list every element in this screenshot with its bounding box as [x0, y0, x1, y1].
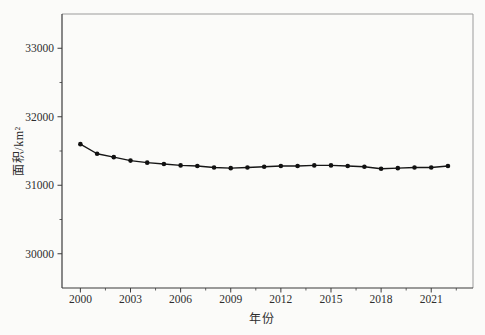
- data-point: [95, 151, 100, 156]
- y-tick-label: 31000: [25, 179, 54, 191]
- data-point: [295, 164, 300, 169]
- x-tick-label: 2021: [420, 293, 443, 305]
- data-point: [245, 165, 250, 170]
- data-point: [262, 164, 267, 169]
- data-point: [212, 165, 217, 170]
- y-axis-title: 面积/km²: [9, 126, 27, 175]
- x-tick-label: 2006: [169, 293, 192, 305]
- data-point: [162, 162, 167, 167]
- x-tick-label: 2009: [219, 293, 242, 305]
- data-point: [412, 165, 417, 170]
- x-tick-label: 2003: [119, 293, 142, 305]
- data-point: [279, 164, 284, 169]
- data-point: [195, 164, 200, 169]
- area-trend-line-chart: 2000200320062009201220152018202130000310…: [0, 0, 485, 335]
- data-point: [78, 142, 83, 147]
- data-point: [446, 164, 451, 169]
- data-point: [228, 166, 233, 171]
- data-point: [379, 167, 384, 172]
- data-point: [362, 164, 367, 169]
- data-point: [329, 163, 334, 168]
- data-point: [429, 165, 434, 170]
- data-point: [128, 158, 133, 163]
- y-tick-label: 32000: [25, 111, 54, 123]
- data-point: [145, 160, 150, 165]
- y-tick-label: 33000: [25, 42, 54, 54]
- x-tick-label: 2015: [319, 293, 342, 305]
- data-point: [396, 166, 401, 171]
- x-tick-label: 2012: [269, 293, 292, 305]
- x-axis-title: 年份: [249, 309, 275, 327]
- chart-canvas: 2000200320062009201220152018202130000310…: [0, 0, 485, 335]
- x-tick-label: 2018: [370, 293, 393, 305]
- x-tick-label: 2000: [69, 293, 92, 305]
- data-point: [111, 155, 116, 160]
- y-tick-label: 30000: [25, 248, 54, 260]
- data-point: [312, 163, 317, 168]
- data-point: [345, 164, 350, 169]
- data-point: [178, 163, 183, 168]
